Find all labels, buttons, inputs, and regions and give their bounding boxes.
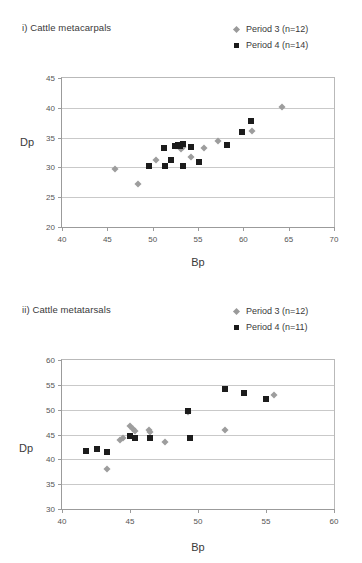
y-tick-label: 30	[46, 163, 55, 172]
legend-item-period-3: Period 3 (n=12)	[230, 21, 350, 37]
legend-label: Period 4 (n=14)	[246, 40, 308, 50]
x-tick-mark	[198, 509, 199, 513]
x-tick-mark	[334, 509, 335, 513]
plot-area: 303540455055604045505560	[61, 359, 335, 510]
y-tick-mark	[58, 108, 62, 109]
y-tick-label: 20	[46, 223, 55, 232]
data-point	[279, 103, 286, 110]
data-point	[162, 438, 169, 445]
data-point	[249, 127, 256, 134]
y-tick-label: 25	[46, 193, 55, 202]
figure-title: i) Cattle metacarpals	[22, 22, 111, 33]
gridline	[62, 197, 334, 198]
y-tick-mark	[58, 167, 62, 168]
x-axis-title: Bp	[61, 256, 335, 268]
x-tick-label: 60	[239, 235, 248, 244]
gridline	[62, 167, 334, 168]
data-point	[147, 435, 153, 441]
y-tick-mark	[58, 78, 62, 79]
figure-title: ii) Cattle metatarsals	[22, 304, 111, 315]
data-point	[222, 426, 229, 433]
x-tick-mark	[266, 509, 267, 513]
data-point	[271, 391, 278, 398]
y-tick-label: 55	[46, 380, 55, 389]
y-tick-mark	[58, 435, 62, 436]
data-point	[224, 142, 230, 148]
data-point	[214, 138, 221, 145]
data-point	[187, 154, 194, 161]
data-point	[94, 446, 100, 452]
data-point	[222, 386, 228, 392]
y-tick-label: 45	[46, 74, 55, 83]
data-point	[104, 449, 110, 455]
legend-item-period-4: Period 4 (n=14)	[230, 37, 350, 53]
gridline	[62, 138, 334, 139]
x-tick-label: 50	[148, 235, 157, 244]
x-tick-mark	[62, 509, 63, 513]
x-tick-mark	[130, 509, 131, 513]
x-axis-title: Bp	[61, 541, 335, 553]
x-tick-label: 45	[126, 517, 135, 526]
data-point	[196, 159, 202, 165]
y-tick-mark	[58, 360, 62, 361]
data-point	[201, 144, 208, 151]
y-tick-label: 35	[46, 133, 55, 142]
y-tick-label: 30	[46, 505, 55, 514]
x-tick-mark	[62, 227, 63, 231]
data-point	[135, 181, 142, 188]
figure-cattle-metatarsals: ii) Cattle metatarsals Period 3 (n=12) P…	[0, 282, 362, 563]
y-tick-label: 45	[46, 430, 55, 439]
x-tick-label: 55	[194, 235, 203, 244]
data-point	[188, 144, 194, 150]
plot-wrapper: Dp Bp 303540455055604045505560	[0, 342, 362, 562]
x-tick-mark	[334, 227, 335, 231]
data-point	[263, 396, 269, 402]
x-tick-mark	[289, 227, 290, 231]
legend-label: Period 3 (n=12)	[246, 24, 308, 34]
y-tick-label: 40	[46, 455, 55, 464]
plot-wrapper: Dp Bp 20253035404540455055606570	[0, 60, 362, 280]
square-marker-icon	[230, 325, 242, 330]
data-point	[241, 390, 247, 396]
x-tick-mark	[107, 227, 108, 231]
figure-cattle-metacarpals: i) Cattle metacarpals Period 3 (n=12) Pe…	[0, 0, 362, 282]
y-tick-label: 40	[46, 103, 55, 112]
y-axis-title: Dp	[19, 442, 33, 454]
y-tick-mark	[58, 385, 62, 386]
legend-item-period-3: Period 3 (n=12)	[230, 303, 350, 319]
data-point	[162, 163, 168, 169]
legend-label: Period 3 (n=12)	[246, 306, 308, 316]
square-marker-icon	[230, 43, 242, 48]
plot-area: 20253035404540455055606570	[61, 77, 335, 228]
x-tick-label: 50	[194, 517, 203, 526]
legend-item-period-4: Period 4 (n=11)	[230, 319, 350, 335]
legend: Period 3 (n=12) Period 4 (n=11)	[230, 303, 350, 335]
x-tick-mark	[153, 227, 154, 231]
legend: Period 3 (n=12) Period 4 (n=14)	[230, 21, 350, 53]
x-tick-label: 40	[58, 235, 67, 244]
data-point	[239, 129, 245, 135]
data-point	[103, 465, 110, 472]
gridline	[62, 108, 334, 109]
gridline	[62, 410, 334, 411]
data-point	[161, 145, 167, 151]
data-point	[111, 165, 118, 172]
data-point	[83, 448, 89, 454]
figure-page: i) Cattle metacarpals Period 3 (n=12) Pe…	[0, 0, 362, 563]
legend-label: Period 4 (n=11)	[246, 322, 308, 332]
gridline	[62, 459, 334, 460]
y-tick-label: 50	[46, 405, 55, 414]
y-tick-mark	[58, 138, 62, 139]
x-tick-label: 40	[58, 517, 67, 526]
y-axis-title: Dp	[20, 136, 34, 148]
y-tick-label: 60	[46, 356, 55, 365]
data-point	[180, 163, 186, 169]
gridline	[62, 435, 334, 436]
data-point	[187, 435, 193, 441]
y-tick-mark	[58, 484, 62, 485]
x-tick-label: 45	[103, 235, 112, 244]
diamond-marker-icon	[230, 309, 242, 314]
x-tick-label: 60	[330, 517, 339, 526]
diamond-marker-icon	[230, 27, 242, 32]
y-tick-mark	[58, 459, 62, 460]
